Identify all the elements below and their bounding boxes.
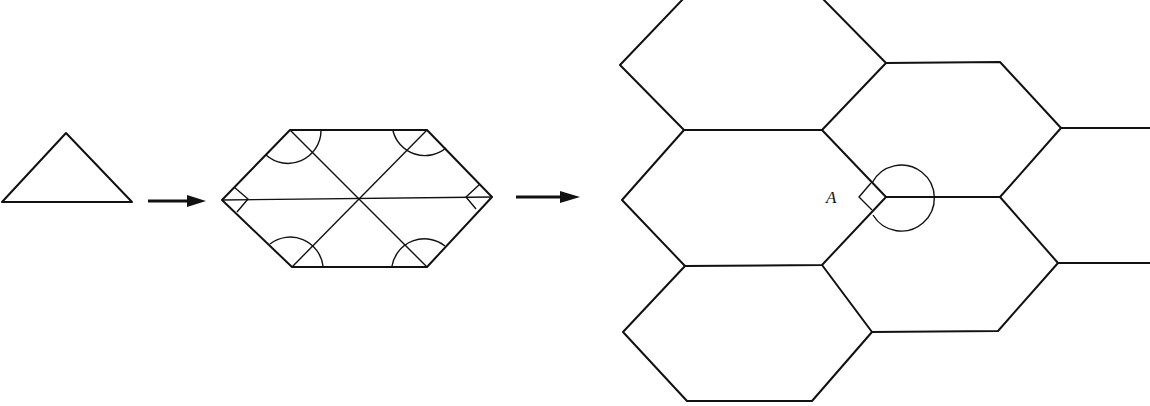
arrow-right-icon [148,195,206,207]
arrow-right-icon [516,191,580,203]
tiling-diagram: A [0,0,1150,406]
triangle [2,133,132,202]
hexagon-of-triangles [222,130,492,267]
vertex-label: A [825,188,837,207]
hexagon-tiling [620,0,1150,401]
